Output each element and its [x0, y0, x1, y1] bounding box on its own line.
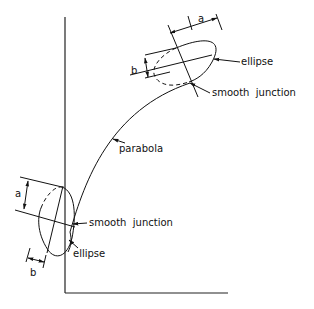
- top-a-label: a: [198, 13, 204, 24]
- bottom-ellipse-group: a b smooth junction ellipse: [15, 177, 173, 278]
- top-ellipse-solid: [176, 41, 216, 82]
- top-ellipse-label: ellipse: [241, 56, 273, 67]
- bottom-b-label: b: [30, 267, 36, 278]
- parabola-label: parabola: [119, 143, 163, 154]
- bottom-a-label: a: [15, 188, 21, 199]
- top-junction-label: smooth junction: [212, 87, 296, 98]
- top-ellipse-dashed: [154, 48, 189, 85]
- bottom-junction-label: smooth junction: [89, 217, 173, 228]
- bottom-ellipse-label: ellipse: [73, 248, 105, 259]
- parabola-curve: [70, 83, 190, 232]
- top-b-label: b: [131, 65, 137, 76]
- top-ellipse-group: a b ellipse smooth junction: [130, 13, 296, 98]
- parabola-ellipse-diagram: a b ellipse smooth junction parabola a b: [0, 0, 314, 309]
